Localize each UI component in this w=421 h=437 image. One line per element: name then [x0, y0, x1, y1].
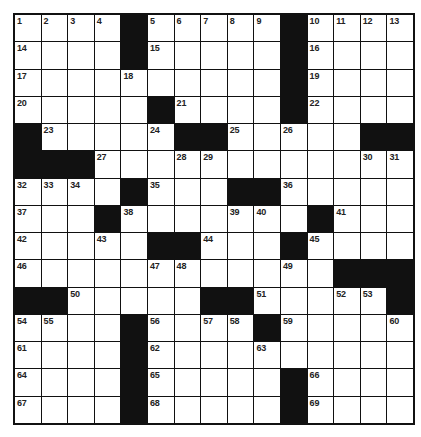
answer-cell[interactable] — [148, 151, 174, 177]
answer-cell[interactable]: 60 — [387, 315, 413, 341]
answer-cell[interactable] — [281, 288, 307, 314]
answer-cell[interactable] — [95, 288, 121, 314]
answer-cell[interactable]: 36 — [281, 179, 307, 205]
answer-cell[interactable] — [334, 124, 360, 150]
answer-cell[interactable] — [387, 233, 413, 259]
answer-cell[interactable]: 2 — [42, 15, 68, 41]
answer-cell[interactable] — [361, 233, 387, 259]
answer-cell[interactable] — [387, 97, 413, 123]
answer-cell[interactable] — [68, 342, 94, 368]
answer-cell[interactable]: 47 — [148, 260, 174, 286]
answer-cell[interactable]: 56 — [148, 315, 174, 341]
answer-cell[interactable] — [228, 151, 254, 177]
answer-cell[interactable]: 15 — [148, 42, 174, 68]
answer-cell[interactable] — [201, 397, 227, 423]
answer-cell[interactable]: 61 — [15, 342, 41, 368]
answer-cell[interactable] — [175, 369, 201, 395]
answer-cell[interactable]: 64 — [15, 369, 41, 395]
answer-cell[interactable]: 1 — [15, 15, 41, 41]
answer-cell[interactable] — [42, 260, 68, 286]
answer-cell[interactable]: 68 — [148, 397, 174, 423]
answer-cell[interactable] — [95, 397, 121, 423]
answer-cell[interactable]: 46 — [15, 260, 41, 286]
answer-cell[interactable] — [121, 260, 147, 286]
answer-cell[interactable]: 42 — [15, 233, 41, 259]
answer-cell[interactable] — [387, 179, 413, 205]
answer-cell[interactable]: 35 — [148, 179, 174, 205]
answer-cell[interactable] — [201, 260, 227, 286]
answer-cell[interactable]: 38 — [121, 206, 147, 232]
answer-cell[interactable] — [361, 42, 387, 68]
answer-cell[interactable] — [68, 42, 94, 68]
answer-cell[interactable] — [254, 369, 280, 395]
answer-cell[interactable] — [148, 70, 174, 96]
answer-cell[interactable] — [334, 233, 360, 259]
answer-cell[interactable] — [121, 151, 147, 177]
answer-cell[interactable]: 55 — [42, 315, 68, 341]
answer-cell[interactable] — [121, 97, 147, 123]
answer-cell[interactable]: 31 — [387, 151, 413, 177]
answer-cell[interactable] — [175, 342, 201, 368]
answer-cell[interactable] — [254, 42, 280, 68]
answer-cell[interactable] — [361, 369, 387, 395]
answer-cell[interactable] — [175, 315, 201, 341]
answer-cell[interactable] — [254, 97, 280, 123]
answer-cell[interactable] — [254, 233, 280, 259]
answer-cell[interactable]: 53 — [361, 288, 387, 314]
answer-cell[interactable] — [387, 369, 413, 395]
answer-cell[interactable] — [334, 42, 360, 68]
answer-cell[interactable] — [175, 42, 201, 68]
answer-cell[interactable] — [228, 260, 254, 286]
answer-cell[interactable]: 13 — [387, 15, 413, 41]
answer-cell[interactable]: 41 — [334, 206, 360, 232]
answer-cell[interactable] — [95, 179, 121, 205]
answer-cell[interactable] — [121, 124, 147, 150]
answer-cell[interactable]: 44 — [201, 233, 227, 259]
answer-cell[interactable] — [175, 70, 201, 96]
answer-cell[interactable] — [175, 397, 201, 423]
answer-cell[interactable]: 54 — [15, 315, 41, 341]
answer-cell[interactable] — [42, 397, 68, 423]
answer-cell[interactable] — [148, 288, 174, 314]
answer-cell[interactable] — [68, 315, 94, 341]
answer-cell[interactable] — [42, 206, 68, 232]
answer-cell[interactable] — [42, 342, 68, 368]
answer-cell[interactable]: 18 — [121, 70, 147, 96]
answer-cell[interactable] — [334, 151, 360, 177]
answer-cell[interactable] — [334, 179, 360, 205]
answer-cell[interactable] — [68, 70, 94, 96]
answer-cell[interactable]: 66 — [308, 369, 334, 395]
answer-cell[interactable]: 32 — [15, 179, 41, 205]
answer-cell[interactable] — [387, 397, 413, 423]
answer-cell[interactable]: 50 — [68, 288, 94, 314]
answer-cell[interactable] — [42, 233, 68, 259]
answer-cell[interactable] — [121, 233, 147, 259]
answer-cell[interactable] — [95, 124, 121, 150]
answer-cell[interactable]: 24 — [148, 124, 174, 150]
answer-cell[interactable]: 25 — [228, 124, 254, 150]
answer-cell[interactable]: 16 — [308, 42, 334, 68]
answer-cell[interactable]: 43 — [95, 233, 121, 259]
answer-cell[interactable] — [95, 315, 121, 341]
answer-cell[interactable] — [228, 233, 254, 259]
answer-cell[interactable] — [361, 342, 387, 368]
answer-cell[interactable] — [42, 97, 68, 123]
answer-cell[interactable]: 39 — [228, 206, 254, 232]
answer-cell[interactable] — [95, 70, 121, 96]
answer-cell[interactable] — [68, 260, 94, 286]
answer-cell[interactable] — [334, 315, 360, 341]
answer-cell[interactable]: 22 — [308, 97, 334, 123]
answer-cell[interactable] — [68, 369, 94, 395]
answer-cell[interactable] — [308, 315, 334, 341]
answer-cell[interactable] — [308, 288, 334, 314]
answer-cell[interactable]: 21 — [175, 97, 201, 123]
answer-cell[interactable] — [228, 70, 254, 96]
answer-cell[interactable] — [387, 70, 413, 96]
answer-cell[interactable] — [334, 397, 360, 423]
answer-cell[interactable]: 6 — [175, 15, 201, 41]
answer-cell[interactable] — [308, 342, 334, 368]
answer-cell[interactable] — [308, 179, 334, 205]
answer-cell[interactable] — [254, 124, 280, 150]
answer-cell[interactable] — [361, 97, 387, 123]
answer-cell[interactable] — [361, 179, 387, 205]
